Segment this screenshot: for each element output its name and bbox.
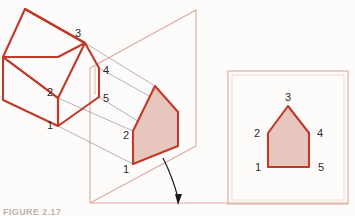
projected-pentagon <box>133 86 178 164</box>
result-label-1: 1 <box>255 161 261 173</box>
projected-label-1: 1 <box>123 163 129 175</box>
gable-near-left-slope <box>58 43 85 98</box>
result-label-3: 3 <box>285 91 291 103</box>
figure-canvas: 1 2 3 4 5 1 2 1 2 3 4 5 FIGURE 2.17 <box>0 0 355 216</box>
figure-container: 1 2 3 4 5 1 2 1 2 3 4 5 FIGURE 2.17 <box>0 0 355 216</box>
projected-label-2: 2 <box>123 129 129 141</box>
gable-near-right-slope <box>85 43 99 68</box>
result-pentagon <box>268 106 309 167</box>
picture-plane <box>90 10 196 203</box>
object-label-4: 4 <box>103 64 109 76</box>
rotation-arrow-curve <box>163 158 178 198</box>
object-label-1: 1 <box>47 119 53 131</box>
object-label-2: 2 <box>47 86 53 98</box>
rotation-arrow-group <box>163 158 182 205</box>
figure-caption-group: FIGURE 2.17 <box>3 207 61 216</box>
result-label-5: 5 <box>318 161 324 173</box>
projector-line-2 <box>58 98 133 131</box>
picture-plane-group <box>90 10 196 203</box>
projected-vertex-labels: 1 2 <box>123 129 129 175</box>
projected-pentagon-group <box>133 86 178 164</box>
object-label-3: 3 <box>75 27 81 39</box>
roof-far-slope <box>3 9 85 57</box>
wall-front-bottom <box>58 97 99 126</box>
projector-line-1 <box>58 126 133 164</box>
figure-caption: FIGURE 2.17 <box>3 207 61 216</box>
result-label-4: 4 <box>317 127 323 139</box>
result-pentagon-group <box>268 106 309 167</box>
isometric-house-group <box>3 9 99 126</box>
object-label-5: 5 <box>103 92 109 104</box>
result-label-2: 2 <box>254 127 260 139</box>
